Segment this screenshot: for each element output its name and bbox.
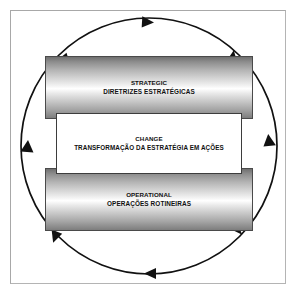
cycle-diagram: STRATEGIC DIRETRIZES ESTRATÉGICAS OPERAT… [0, 0, 298, 298]
band-strategic-subtitle: DIRETRIZES ESTRATÉGICAS [103, 88, 195, 96]
band-change: CHANGE TRANSFORMAÇÃO DA ESTRATÉGIA EM AÇ… [56, 113, 242, 174]
band-strategic-title: STRATEGIC [131, 79, 167, 87]
band-operational: OPERATIONAL OPERAÇÕES ROTINEIRAS [45, 168, 253, 231]
band-change-subtitle: TRANSFORMAÇÃO DA ESTRATÉGIA EM AÇÕES [74, 144, 224, 152]
band-operational-subtitle: OPERAÇÕES ROTINEIRAS [107, 200, 191, 208]
band-operational-title: OPERATIONAL [126, 191, 172, 199]
band-change-title: CHANGE [135, 135, 162, 143]
band-strategic: STRATEGIC DIRETRIZES ESTRATÉGICAS [45, 56, 253, 119]
